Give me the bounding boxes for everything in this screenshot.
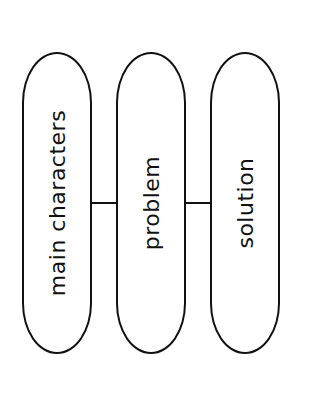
node-label: problem: [139, 156, 164, 251]
node-label: main characters: [45, 110, 70, 296]
node-problem: problem: [116, 52, 186, 354]
node-label: solution: [233, 157, 258, 248]
connector-line: [92, 202, 118, 204]
node-main-characters: main characters: [22, 52, 92, 354]
connector-line: [186, 202, 212, 204]
node-solution: solution: [210, 52, 280, 354]
